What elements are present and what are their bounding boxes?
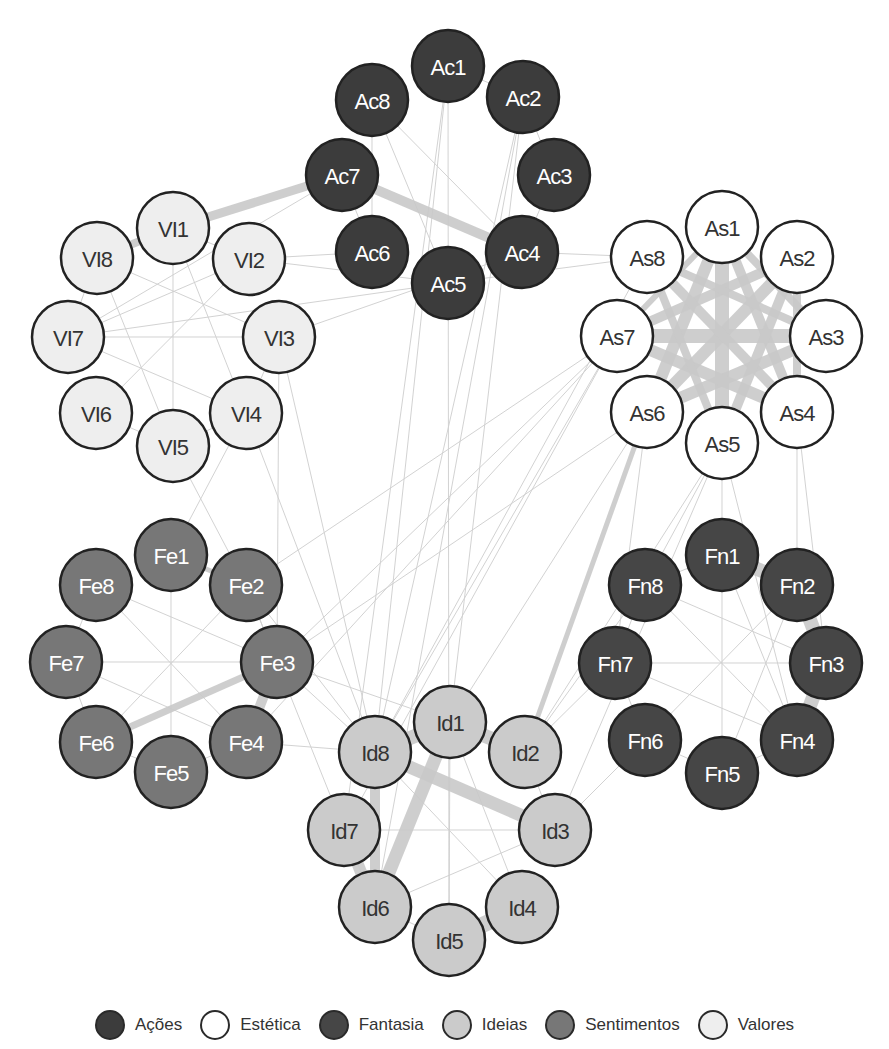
node-label: VI1: [158, 217, 189, 242]
node-label: Fe1: [154, 544, 190, 569]
node-label: As2: [780, 246, 816, 271]
node-as7: As7: [581, 300, 653, 372]
legend-swatch-icon: [442, 1010, 472, 1040]
legend-label: Fantasia: [359, 1015, 424, 1035]
node-fe5: Fe5: [135, 736, 207, 808]
node-vl5: VI5: [137, 410, 209, 482]
node-label: Ac4: [505, 241, 541, 266]
node-label: Id5: [435, 929, 463, 954]
node-label: VI8: [82, 247, 113, 272]
node-label: Fn8: [628, 574, 664, 599]
node-label: Id3: [541, 819, 569, 844]
node-label: Ac2: [506, 86, 542, 111]
node-ac5: Ac5: [412, 247, 484, 319]
node-label: Ac3: [537, 164, 573, 189]
node-ac6: Ac6: [336, 216, 408, 288]
node-label: Fe5: [154, 761, 190, 786]
node-as3: As3: [790, 300, 862, 372]
node-fe4: Fe4: [210, 706, 282, 778]
legend-swatch-icon: [698, 1010, 728, 1040]
node-label: VI3: [264, 326, 295, 351]
node-fn8: Fn8: [609, 549, 681, 621]
node-label: Fn1: [705, 544, 741, 569]
node-label: VI5: [158, 435, 189, 460]
node-id6: Id6: [339, 871, 411, 943]
node-fn2: Fn2: [761, 549, 833, 621]
legend: Ações Estética Fantasia Ideias Sentiment…: [0, 1000, 889, 1049]
edge-Fe3-As7: [277, 336, 617, 662]
legend-swatch-icon: [319, 1010, 349, 1040]
node-label: Ac5: [431, 272, 467, 297]
node-label: Id4: [508, 896, 536, 921]
node-label: As8: [630, 246, 666, 271]
node-label: Fe7: [49, 651, 85, 676]
node-ac8: Ac8: [336, 64, 408, 136]
node-label: Fn7: [598, 652, 634, 677]
edge-As7-Id8: [375, 336, 617, 752]
legend-item-valores: Valores: [698, 1010, 794, 1040]
legend-item-ideias: Ideias: [442, 1010, 527, 1040]
node-fe7: Fe7: [30, 626, 102, 698]
node-vl1: VI1: [137, 192, 209, 264]
node-label: Id7: [330, 819, 358, 844]
node-label: As5: [705, 432, 741, 457]
legend-swatch-icon: [200, 1010, 230, 1040]
node-id8: Id8: [339, 716, 411, 788]
node-label: As6: [630, 401, 666, 426]
node-ac2: Ac2: [487, 61, 559, 133]
node-label: Id2: [511, 741, 539, 766]
node-label: As4: [780, 401, 816, 426]
node-vl3: VI3: [243, 301, 315, 373]
node-label: Id1: [436, 711, 464, 736]
legend-item-acoes: Ações: [95, 1010, 182, 1040]
node-label: Fe6: [79, 731, 115, 756]
node-ac7: Ac7: [306, 139, 378, 211]
node-label: Ac1: [431, 55, 467, 80]
node-as5: As5: [686, 407, 758, 479]
node-as6: As6: [611, 376, 683, 448]
node-id1: Id1: [414, 686, 486, 758]
node-label: Fe8: [79, 574, 115, 599]
node-id5: Id5: [413, 904, 485, 976]
node-label: Fn6: [628, 729, 664, 754]
node-ac3: Ac3: [518, 139, 590, 211]
network-graph: Ac1Ac2Ac3Ac4Ac5Ac6Ac7Ac8As1As2As3As4As5A…: [0, 0, 889, 1000]
node-fe1: Fe1: [135, 519, 207, 591]
legend-label: Valores: [738, 1015, 794, 1035]
node-vl2: VI2: [213, 223, 285, 295]
node-label: Ac6: [355, 241, 391, 266]
node-vl6: VI6: [60, 377, 132, 449]
edge-Fe3-As6: [277, 412, 647, 662]
edge-Ac1-Id8: [375, 66, 448, 752]
node-fe6: Fe6: [60, 706, 132, 778]
legend-label: Sentimentos: [585, 1015, 680, 1035]
node-label: VI2: [234, 248, 265, 273]
node-ac4: Ac4: [486, 216, 558, 288]
legend-item-fantasia: Fantasia: [319, 1010, 424, 1040]
node-label: Fe4: [229, 731, 265, 756]
node-label: As1: [705, 216, 741, 241]
node-label: Fe2: [229, 574, 265, 599]
legend-item-sentimentos: Sentimentos: [545, 1010, 680, 1040]
node-fn6: Fn6: [609, 704, 681, 776]
legend-label: Ideias: [482, 1015, 527, 1035]
node-id2: Id2: [489, 716, 561, 788]
node-as8: As8: [611, 221, 683, 293]
node-label: Id8: [361, 741, 389, 766]
node-label: Fn4: [780, 729, 816, 754]
legend-item-estetica: Estética: [200, 1010, 300, 1040]
node-label: VI7: [53, 326, 84, 351]
node-label: As3: [809, 325, 845, 350]
node-as4: As4: [761, 376, 833, 448]
node-label: VI4: [231, 402, 262, 427]
legend-label: Ações: [135, 1015, 182, 1035]
node-vl8: VI8: [61, 222, 133, 294]
legend-label: Estética: [240, 1015, 300, 1035]
node-fe8: Fe8: [60, 549, 132, 621]
node-id4: Id4: [486, 871, 558, 943]
node-label: Fn5: [705, 762, 741, 787]
node-fn3: Fn3: [790, 627, 862, 699]
legend-swatch-icon: [545, 1010, 575, 1040]
node-fe2: Fe2: [210, 549, 282, 621]
node-ac1: Ac1: [412, 30, 484, 102]
